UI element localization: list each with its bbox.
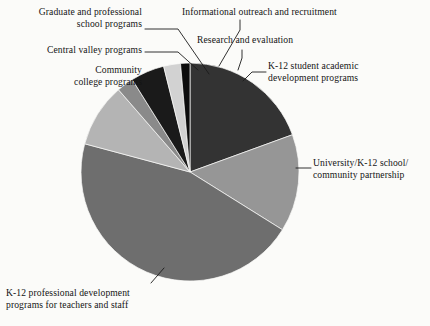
label-university-k12-school-community-partnership: University/K-12 school/ community partne… (313, 157, 430, 180)
label-research-and-evaluation: Research and evaluation (197, 34, 367, 46)
leader-line-research-evaluation (238, 50, 242, 70)
label-k12-student-academic-development-programs: K-12 student academic development progra… (268, 60, 424, 83)
label-k12-professional-development-programs: K-12 professional development programs f… (6, 287, 184, 310)
label-central-valley-programs: Central valley programs (8, 44, 142, 56)
label-community-college-programs: Community college programs (30, 64, 142, 87)
pie-slices (81, 63, 299, 281)
label-informational-outreach-and-recruitment: Informational outreach and recruitment (182, 6, 372, 18)
label-graduate-professional-school-programs: Graduate and professional school program… (8, 6, 142, 29)
pie-chart-figure: Graduate and professional school program… (0, 0, 430, 326)
